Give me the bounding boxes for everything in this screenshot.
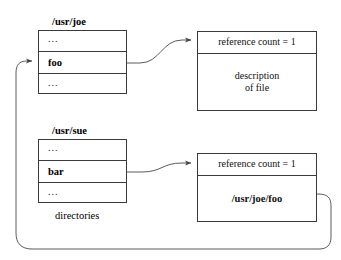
inode-symlink-reference-count: reference count = 1 <box>198 154 316 176</box>
connector-foo-to-inode-file <box>116 40 191 63</box>
directory-row[interactable]: ... <box>39 183 126 204</box>
inode-symlink-body: /usr/joe/foo <box>198 175 316 222</box>
inode-file-reference-count: reference count = 1 <box>198 32 316 54</box>
directory-usr-sue[interactable]: ... bar ... <box>38 139 127 203</box>
directory-usr-joe-label: /usr/joe <box>52 16 86 27</box>
directory-usr-joe[interactable]: ... foo ... <box>38 30 127 94</box>
connector-bar-to-inode-symlink <box>116 163 191 172</box>
inode-file-body: description of file <box>198 53 316 111</box>
diagram-canvas: /usr/joe ... foo ... reference count = 1… <box>0 0 341 260</box>
inode-file-body-line: description <box>235 70 279 83</box>
directory-entry-ellipsis: ... <box>48 34 59 44</box>
directory-entry-ellipsis: ... <box>48 78 59 88</box>
directory-row-foo[interactable]: foo <box>39 52 126 74</box>
directory-entry-foo: foo <box>48 57 62 68</box>
directory-usr-sue-label: /usr/sue <box>52 125 87 136</box>
directories-caption: directories <box>55 210 99 221</box>
directory-row[interactable]: ... <box>39 74 126 95</box>
directory-row[interactable]: ... <box>39 31 126 52</box>
inode-symlink[interactable]: reference count = 1 /usr/joe/foo <box>197 153 317 222</box>
directory-entry-ellipsis: ... <box>48 143 59 153</box>
directory-entry-bar: bar <box>48 166 64 177</box>
directory-row[interactable]: ... <box>39 140 126 161</box>
directory-entry-ellipsis: ... <box>48 187 59 197</box>
directory-row-bar[interactable]: bar <box>39 161 126 183</box>
inode-file[interactable]: reference count = 1 description of file <box>197 31 317 111</box>
inode-file-body-line: of file <box>245 82 269 95</box>
inode-symlink-target-path: /usr/joe/foo <box>232 192 283 205</box>
